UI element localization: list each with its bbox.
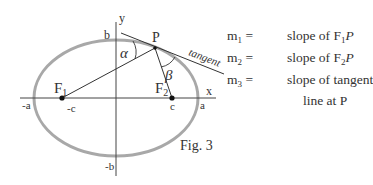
label-f1: F1	[54, 80, 67, 98]
legend-text: slope of tangent	[287, 71, 373, 93]
angle-alpha-arc	[133, 41, 136, 59]
tick-label-a: a	[200, 99, 205, 111]
point-p	[153, 46, 157, 50]
angle-alpha-label: α	[120, 45, 129, 61]
segment-f1-p	[62, 48, 155, 98]
angle-beta-label: β	[164, 67, 173, 83]
legend-row-m3: m3 = slope of tangent	[227, 71, 373, 93]
legend-symbol: m3 =	[227, 71, 287, 93]
tick-label-b: b	[104, 28, 110, 42]
tick-label-neg-a: -a	[22, 99, 31, 111]
legend-symbol: m2 =	[227, 49, 287, 71]
tick-label-neg-c: -c	[67, 102, 76, 114]
y-axis-label: y	[119, 11, 125, 25]
tick-label-c: c	[170, 100, 175, 112]
legend-symbol: m1 =	[227, 27, 287, 49]
legend-text: slope of F1P	[287, 27, 354, 49]
angle-beta-arc	[161, 57, 175, 67]
legend-row-m2: m2 = slope of F2P	[227, 49, 373, 71]
legend-continuation: line at P	[227, 92, 373, 109]
figure-caption: Fig. 3	[180, 138, 213, 154]
label-p: P	[152, 30, 160, 45]
legend-row-m1: m1 = slope of F1P	[227, 27, 373, 49]
slope-legend: m1 = slope of F1P m2 = slope of F2P m3 =…	[227, 27, 373, 109]
tangent-label: tangent	[187, 46, 223, 69]
legend-text: slope of F2P	[287, 49, 354, 71]
x-axis-label: x	[206, 84, 212, 98]
tick-label-neg-b: -b	[105, 160, 115, 172]
